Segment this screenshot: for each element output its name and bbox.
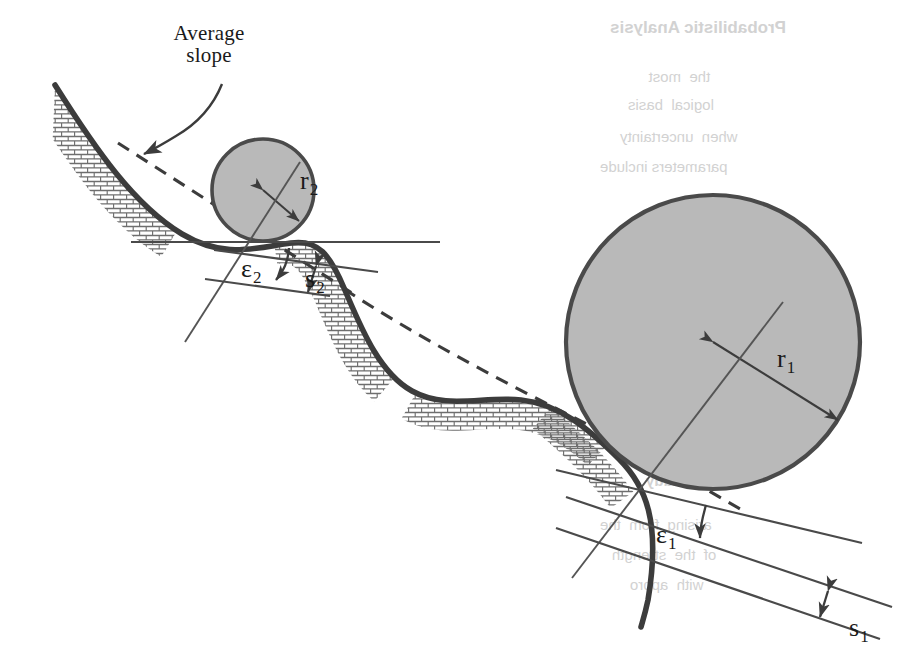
label-r1-sub: 1 [787,358,796,377]
angle-arc-epsilon1 [700,505,706,538]
slope-rail-upper-s1 [566,497,892,607]
label-r1: r1 [777,345,794,373]
label-r2-base: r [300,166,309,195]
slope-hatching [42,95,622,500]
label-s2-sub: 2 [316,278,325,297]
label-epsilon2: ε2 [241,255,260,283]
average-slope-label: Averageslope [150,22,268,67]
label-s2: s2 [305,265,324,293]
label-epsilon2-base: ε [241,254,252,283]
label-s1: s1 [849,614,868,642]
average-slope-line1: Average [174,21,245,45]
label-epsilon2-sub: 2 [253,268,262,287]
label-r2-sub: 2 [310,180,319,199]
label-epsilon1-sub: 1 [668,534,677,553]
offset-arrow-s1 [820,591,828,617]
label-s2-base: s [305,264,315,293]
average-slope-line2: slope [186,43,231,67]
figure-canvas: Probabilistic Analysisthe most logical b… [0,0,924,666]
label-epsilon1-base: ε [656,520,667,549]
label-r2: r2 [300,167,317,195]
label-epsilon1: ε1 [656,521,675,549]
label-r1-base: r [777,344,786,373]
slope-rail-lower-s1 [556,528,880,639]
label-s1-sub: 1 [860,627,869,646]
average-slope-leader-arrow [144,84,222,154]
diagram-vector-layer [0,0,924,666]
label-s1-base: s [849,613,859,642]
